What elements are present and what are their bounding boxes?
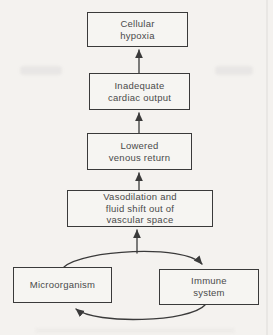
node-immune-system: Immune system <box>159 269 259 305</box>
node-immune-system-label: Immune system <box>191 275 227 299</box>
node-vasodilation-fluid-shift: Vasodilation and fluid shift out of vasc… <box>67 190 213 227</box>
node-vasodilation-fluid-shift-label: Vasodilation and fluid shift out of vasc… <box>103 191 177 227</box>
cycle-top-arc-microorganism-to-immune <box>64 251 202 267</box>
node-lowered-venous-return-label: Lowered venous return <box>109 140 170 164</box>
node-cellular-hypoxia: Cellular hypoxia <box>87 12 188 47</box>
scan-artifact-smudge-bottom <box>35 328 235 333</box>
diagram-canvas: Cellular hypoxia Inadequate cardiac outp… <box>0 0 273 335</box>
cycle-bottom-arc-immune-to-microorganism <box>76 305 205 320</box>
scan-artifact-page-edge <box>266 0 268 335</box>
node-cellular-hypoxia-label: Cellular hypoxia <box>120 18 155 42</box>
node-inadequate-cardiac-output-label: Inadequate cardiac output <box>108 80 171 104</box>
node-inadequate-cardiac-output: Inadequate cardiac output <box>89 73 190 110</box>
node-microorganism: Microorganism <box>13 267 112 303</box>
node-lowered-venous-return: Lowered venous return <box>87 133 192 170</box>
scan-artifact-smudge-left <box>20 66 62 75</box>
node-microorganism-label: Microorganism <box>30 279 96 291</box>
scan-artifact-smudge-right <box>215 66 253 75</box>
